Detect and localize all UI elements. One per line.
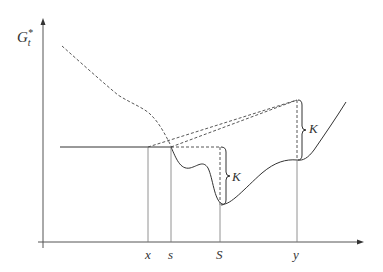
main-curve [171,102,346,204]
construction-lines [148,100,297,205]
tick-label-y: y [291,247,299,262]
tick-label-S: S [216,247,223,262]
tick-label-s: s [168,247,173,262]
brace-lower-icon [221,147,230,205]
brace-upper-icon [298,100,306,160]
y-axis-label: Gt* [17,27,33,48]
x-axis-arrow-icon [357,240,364,245]
dashed-descending-curve [62,46,172,148]
tick-label-x: x [144,247,151,262]
vertical-guides [148,147,297,242]
dashed-line-x-to-y [148,100,297,147]
x-tick-labels: x s S y [144,247,299,262]
brace-upper-label: K [308,121,319,136]
brace-lower-label: K [231,169,242,184]
dashed-line-s-to-y [171,100,297,147]
diagram: Gt* K K x s S y [0,0,383,272]
y-axis-arrow-icon [41,18,46,25]
